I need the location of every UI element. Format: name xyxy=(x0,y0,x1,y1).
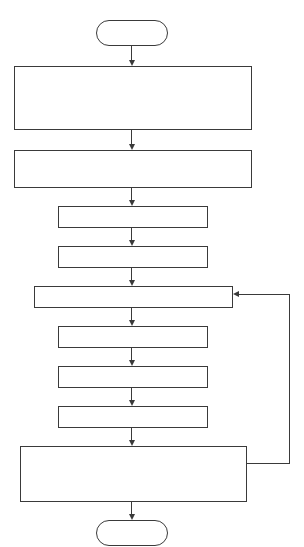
solve-velocity-i-box xyxy=(58,406,208,428)
solve-d-minus-1-box xyxy=(58,206,208,228)
loop-return-top xyxy=(239,294,290,295)
loop-return-vertical xyxy=(289,294,290,464)
end-terminal xyxy=(96,520,168,546)
solve-d1-box xyxy=(58,246,208,268)
solve-acceleration-i-box xyxy=(58,366,208,388)
do-loop-box xyxy=(34,286,233,308)
loop-return-bottom xyxy=(247,463,290,464)
evaluate-acceleration-box xyxy=(14,150,252,188)
loop-arrow-icon xyxy=(233,291,239,297)
input-conditions-box xyxy=(14,66,252,130)
start-terminal xyxy=(96,20,168,46)
solve-d-i-plus-1-box xyxy=(58,326,208,348)
output-results-box xyxy=(20,446,247,502)
